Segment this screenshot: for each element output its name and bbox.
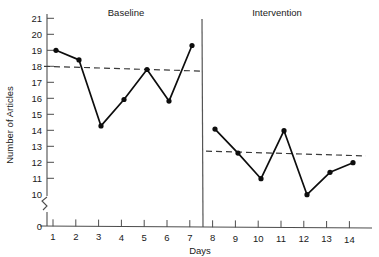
data-point [350, 160, 355, 165]
data-point [53, 48, 58, 53]
y-tick-label: 16 [31, 93, 42, 104]
y-tick-labels: 21 20 19 18 17 16 15 14 13 12 11 10 0 [31, 13, 42, 232]
x-tick-label: 8 [210, 232, 215, 243]
x-tick-label: 10 [253, 233, 264, 244]
x-tick-label: 13 [321, 233, 332, 244]
y-tick-label: 17 [31, 77, 42, 88]
intervention-data-line [215, 129, 353, 195]
y-axis-title: Number of Articles [4, 86, 15, 164]
phase-divider-line [202, 19, 203, 227]
data-point [121, 97, 126, 102]
x-axis-title: Days [189, 245, 211, 256]
x-axis-line [40, 226, 372, 228]
y-tick-label: 18 [31, 61, 42, 72]
data-point [235, 151, 240, 156]
baseline-trend-line [44, 66, 201, 71]
x-tick-label: 3 [96, 231, 101, 242]
x-tick-label: 1 [50, 231, 55, 242]
x-tick-label: 2 [73, 231, 78, 242]
y-tick-label: 14 [31, 125, 42, 136]
y-tick-label: 13 [31, 141, 42, 152]
y-tick-label: 15 [31, 109, 42, 120]
baseline-data-line [56, 46, 192, 126]
intervention-data-points [212, 127, 355, 198]
data-point [304, 192, 309, 197]
x-tick-label: 14 [344, 234, 355, 245]
data-point [327, 170, 332, 175]
x-tick-label: 9 [233, 233, 238, 244]
y-tick-label: 10 [31, 189, 42, 200]
chart-container: 21 20 19 18 17 16 15 14 13 12 11 10 0 [0, 0, 379, 257]
x-tick-label: 6 [164, 232, 169, 243]
y-tick-label: 0 [37, 221, 42, 232]
x-tick-label: 4 [119, 232, 124, 243]
data-point [281, 128, 286, 133]
y-tick-label: 11 [32, 173, 42, 184]
data-point [189, 43, 194, 48]
y-tick-label: 19 [31, 45, 42, 56]
data-point [212, 127, 217, 132]
data-point [76, 57, 81, 62]
x-tick-labels: 1 2 3 4 5 6 7 8 9 10 11 12 13 14 [50, 231, 354, 245]
y-tick-marks [47, 18, 54, 178]
x-tick-label: 12 [299, 233, 310, 244]
y-axis-break-icon [42, 197, 47, 210]
baseline-data-points [53, 43, 194, 129]
baseline-phase-label: Baseline [108, 7, 144, 18]
x-tick-label: 11 [276, 233, 286, 244]
intervention-phase-label: Intervention [252, 7, 302, 18]
data-point [258, 176, 263, 181]
x-tick-label: 7 [187, 232, 192, 243]
y-tick-label: 20 [31, 29, 42, 40]
data-point [144, 67, 149, 72]
y-tick-label: 21 [31, 13, 42, 24]
data-point [166, 99, 171, 104]
x-tick-label: 5 [142, 232, 147, 243]
intervention-trend-line [206, 151, 366, 156]
y-tick-label: 12 [31, 157, 42, 168]
data-point [98, 123, 103, 128]
line-chart: 21 20 19 18 17 16 15 14 13 12 11 10 0 [0, 0, 379, 257]
